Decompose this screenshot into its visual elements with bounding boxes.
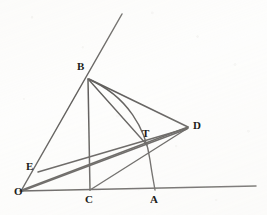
point-label-b: B (77, 61, 84, 72)
point-label-c: C (85, 194, 93, 205)
segment-ed (38, 128, 188, 172)
segment-bd (89, 79, 188, 127)
point-label-o: O (14, 186, 23, 197)
segment-ot-extended (22, 129, 187, 191)
segment-bt (89, 80, 147, 145)
figure-canvas (0, 0, 267, 215)
segment-bc (88, 79, 90, 190)
point-label-t: T (142, 128, 149, 139)
segment-baseline (20, 186, 256, 191)
geometry-figure: B D T E O C A (0, 0, 267, 215)
point-label-d: D (193, 120, 201, 131)
point-label-a: A (150, 194, 158, 205)
point-label-e: E (26, 161, 33, 172)
segment-upper-ray (21, 14, 122, 191)
